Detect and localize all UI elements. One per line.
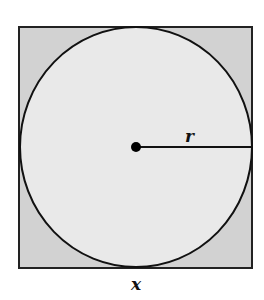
side-length-label: x <box>130 274 142 294</box>
circle-in-square-diagram: r x <box>0 0 264 300</box>
radius-label: r <box>185 126 195 146</box>
center-point <box>131 142 141 152</box>
